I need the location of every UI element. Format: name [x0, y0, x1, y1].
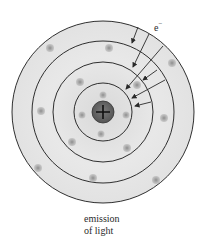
caption-line-2: of light	[84, 225, 120, 237]
bohr-atom-diagram: e− emission of light	[0, 0, 204, 248]
atom-svg	[0, 0, 204, 248]
caption: emission of light	[84, 213, 120, 237]
electron-label: e−	[154, 21, 162, 33]
caption-line-1: emission	[84, 213, 120, 225]
nucleus	[92, 101, 114, 123]
